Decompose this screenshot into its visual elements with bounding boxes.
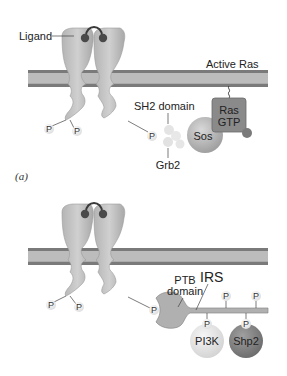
phospho-label: P xyxy=(151,306,157,315)
pi3k-label: PI3K xyxy=(195,336,219,347)
shp2-label: Shp2 xyxy=(233,336,259,347)
panel-a-label: (a) xyxy=(15,171,28,182)
lipid-anchor-icon xyxy=(228,86,229,98)
phospho-label: P xyxy=(76,303,82,312)
cell-membrane-a xyxy=(28,70,268,87)
ras-label: Ras GTP xyxy=(212,104,246,128)
phospho-label: P xyxy=(46,125,52,134)
signaling-figure: Ligand Active Ras Ras GTP Sos SH2 domain… xyxy=(0,0,287,376)
grb2-protein xyxy=(163,125,185,149)
ptb-domain-label: PTB domain xyxy=(167,275,203,297)
sos-label: Sos xyxy=(194,131,213,142)
phospho-label: P xyxy=(74,127,80,136)
irs-protein xyxy=(156,292,268,328)
grb2-label: Grb2 xyxy=(156,160,180,171)
phospho-label: P xyxy=(243,320,249,329)
phospho-label: P xyxy=(48,301,54,310)
phospho-label: P xyxy=(149,132,155,141)
panel-b xyxy=(28,203,268,358)
sh2-domain-label: SH2 domain xyxy=(134,101,195,112)
ras-tail-icon xyxy=(242,128,252,138)
phospho-label: P xyxy=(223,292,229,301)
cell-membrane-b xyxy=(28,248,268,265)
ligand-label: Ligand xyxy=(19,31,52,42)
phospho-label: P xyxy=(253,292,259,301)
phospho-label: P xyxy=(204,320,210,329)
irs-label: IRS xyxy=(200,270,223,284)
active-ras-label: Active Ras xyxy=(206,59,259,70)
